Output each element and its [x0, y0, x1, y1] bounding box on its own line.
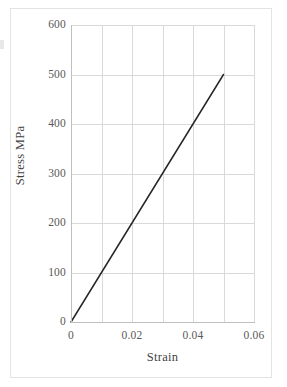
x-tick-label-0.02: 0.02 — [102, 330, 162, 342]
x-axis-title: Strain — [71, 350, 254, 365]
x-tick-label-0: 0 — [41, 330, 101, 342]
y-axis-tick-labels: 0100200300400500600 — [22, 0, 66, 387]
y-tick-label-0: 0 — [26, 316, 66, 328]
y-axis-spine — [71, 25, 72, 323]
data-series-layer — [71, 25, 254, 322]
y-axis-title: Stress MPa — [13, 106, 28, 206]
y-tick-label-300: 300 — [26, 168, 66, 180]
gridline-x-0.06 — [254, 25, 255, 322]
x-axis-tick-labels: 00.020.040.06 — [0, 330, 287, 348]
y-tick-label-500: 500 — [26, 69, 66, 81]
y-tick-label-200: 200 — [26, 217, 66, 229]
x-tick-label-0.06: 0.06 — [224, 330, 284, 342]
y-tick-label-400: 400 — [26, 118, 66, 130]
y-tick-label-100: 100 — [26, 267, 66, 279]
stress-strain-chart: 0100200300400500600 00.020.040.06 Stress… — [0, 0, 287, 387]
x-tick-label-0.04: 0.04 — [163, 330, 223, 342]
y-tick-label-600: 600 — [26, 19, 66, 31]
stress-strain-line — [71, 75, 224, 323]
x-axis-spine — [71, 322, 255, 323]
plot-area — [71, 25, 254, 322]
